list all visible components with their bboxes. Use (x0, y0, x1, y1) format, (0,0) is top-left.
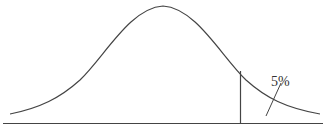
bell-curve (10, 6, 320, 114)
tail-percent-label: 5% (271, 74, 290, 89)
normal-curve-diagram: 5% (0, 0, 326, 133)
